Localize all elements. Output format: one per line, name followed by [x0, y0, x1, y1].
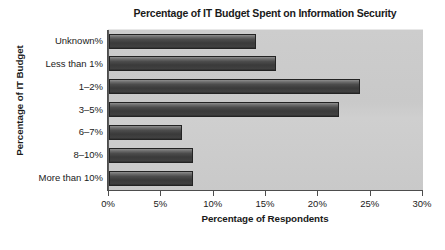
x-axis-tick-label: 0% — [88, 198, 128, 209]
bar-row — [109, 53, 423, 76]
bar — [109, 148, 193, 163]
y-axis-title: Percentage of IT Budget — [14, 26, 25, 176]
x-axis-tick-mark — [265, 190, 266, 196]
x-axis-tick-label: 20% — [297, 198, 337, 209]
bar-row — [109, 99, 423, 122]
plot-area — [108, 30, 423, 190]
bar — [109, 125, 182, 140]
chart-figure: Percentage of IT Budget Spent on Informa… — [0, 0, 445, 250]
bar-row — [109, 144, 423, 167]
bar — [109, 79, 360, 94]
x-axis-tick-mark — [422, 190, 423, 196]
x-axis-tick-mark — [317, 190, 318, 196]
y-axis-line — [107, 30, 108, 191]
bar — [109, 56, 276, 71]
bar — [109, 102, 339, 117]
x-axis-title: Percentage of Respondents — [108, 213, 422, 224]
bar-row — [109, 76, 423, 99]
bar-row — [109, 167, 423, 190]
x-axis-tick-label: 30% — [402, 198, 442, 209]
x-axis-tick-mark — [108, 190, 109, 196]
x-axis-tick-label: 10% — [193, 198, 233, 209]
x-axis-tick-mark — [370, 190, 371, 196]
bar-row — [109, 121, 423, 144]
x-axis-tick-mark — [213, 190, 214, 196]
x-axis-tick-label: 25% — [350, 198, 390, 209]
x-axis-tick-label: 15% — [245, 198, 285, 209]
x-axis-tick-label: 5% — [140, 198, 180, 209]
x-axis-tick-mark — [160, 190, 161, 196]
bar-row — [109, 30, 423, 53]
bar — [109, 171, 193, 186]
bar — [109, 34, 256, 49]
chart-title: Percentage of IT Budget Spent on Informa… — [100, 7, 430, 19]
